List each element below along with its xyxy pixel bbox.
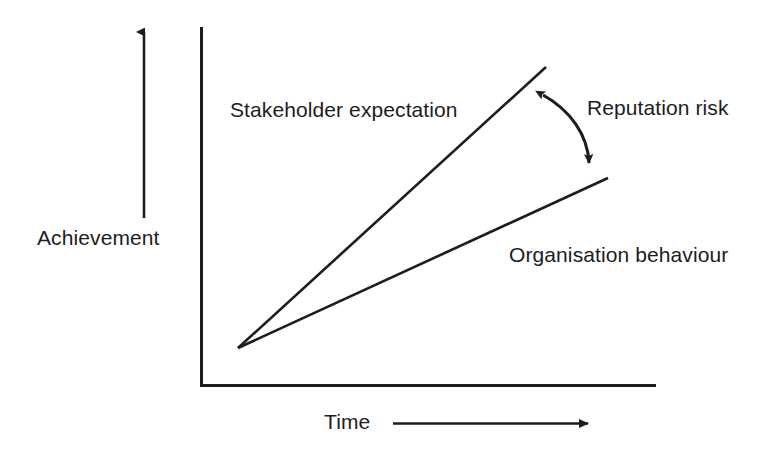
double-headed-curved-arrow-icon bbox=[543, 95, 589, 163]
diagram-canvas: Stakeholder expectation Reputation risk … bbox=[0, 0, 784, 461]
reputation-risk-label: Reputation risk bbox=[587, 97, 729, 118]
stakeholder-expectation-label: Stakeholder expectation bbox=[230, 99, 458, 120]
x-axis-label: Time bbox=[324, 411, 370, 432]
organisation-behaviour-label: Organisation behaviour bbox=[509, 244, 728, 265]
y-axis-label: Achievement bbox=[37, 227, 160, 248]
